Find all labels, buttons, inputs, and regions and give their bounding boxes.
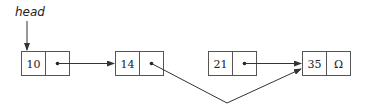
node-value: 14 [121, 58, 135, 71]
node-value: 21 [214, 58, 228, 71]
linked-list-diagram: head 10 14 21 35 Ω [0, 0, 368, 107]
list-node-35: 35 Ω [303, 52, 351, 76]
head-label: head [15, 5, 45, 19]
node-value: 35 [308, 58, 322, 71]
list-node-14: 14 [116, 52, 164, 76]
null-terminator-omega-icon: Ω [334, 58, 343, 71]
node-value: 10 [27, 58, 41, 71]
